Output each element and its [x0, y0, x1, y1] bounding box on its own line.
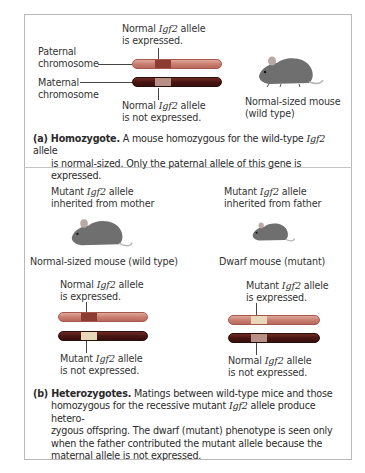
a-not-expressed-pointer [158, 88, 159, 100]
a-expressed-label: Normal Igf2 allele is expressed. [122, 23, 205, 47]
igf2-normal-band-silenced [155, 78, 171, 86]
igf2-normal-band-silenced [251, 334, 267, 342]
b-right-bottom-pointer [256, 343, 257, 355]
a-not-expressed-label: Normal Igf2 allele is not expressed. [122, 100, 205, 124]
caption-a-title: Homozygote. [51, 133, 120, 144]
caption-b: (b) Heterozygotes. Matings between wild-… [33, 388, 351, 462]
b-right-paternal-chromosome [228, 315, 320, 325]
igf2-normal-band-expressed [81, 313, 97, 321]
igf2-mutant-band-silenced [81, 332, 97, 340]
paternal-chromosome [132, 59, 222, 69]
maternal-chromosome [132, 77, 222, 87]
normal-sized-mouse-image [68, 213, 134, 253]
gene-name: Igf2 [159, 23, 178, 34]
b-left-bottom-pointer [86, 341, 87, 353]
paternal-pointer [98, 64, 132, 65]
b-left-paternal-chromosome [58, 312, 148, 322]
paternal-chromosome-label: Paternal chromosome [38, 46, 99, 70]
b-right-expressed-label: Mutant Igf2 allele is expressed. [246, 280, 329, 304]
caption-a: (a) Homozygote. A mouse homozygous for t… [33, 133, 351, 183]
b-left-top-pointer [86, 302, 87, 312]
a-mouse-label: Normal-sized mouse (wild type) [245, 96, 340, 120]
caption-b-title: Heterozygotes. [51, 388, 131, 399]
b-left-not-expressed-label: Mutant Igf2 allele is not expressed. [60, 353, 143, 377]
maternal-pointer [80, 82, 132, 83]
b-left-maternal-chromosome [58, 331, 148, 341]
b-right-maternal-chromosome [228, 333, 320, 343]
normal-sized-mouse-image [255, 50, 325, 92]
b-left-mouse-label: Normal-sized mouse (wild type) [30, 256, 178, 268]
dwarf-mouse-image [250, 218, 296, 246]
maternal-chromosome-label: Maternal chromosome [38, 77, 99, 101]
igf2-mutant-band-expressed [251, 316, 267, 324]
igf2-normal-band-expressed [155, 60, 171, 68]
b-right-header: Mutant Igf2 allele inherited from father [224, 186, 321, 210]
b-left-expressed-label: Normal Igf2 allele is expressed. [60, 279, 143, 303]
b-left-header: Mutant Igf2 allele inherited from mother [51, 186, 154, 210]
b-right-not-expressed-label: Normal Igf2 allele is not expressed. [228, 355, 311, 379]
b-right-mouse-label: Dwarf mouse (mutant) [219, 256, 325, 268]
b-right-top-pointer [256, 303, 257, 315]
